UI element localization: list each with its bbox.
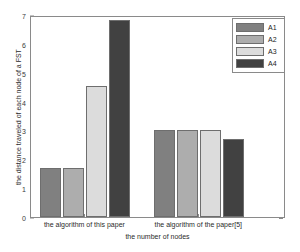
- x-axis-tick-label: the algorithm of this paper: [44, 221, 125, 228]
- legend-label: A3: [268, 48, 277, 55]
- x-axis-tick-mark: [84, 214, 85, 218]
- y-axis-tick-label: 1: [22, 186, 26, 193]
- y-axis-tick-label: 0: [22, 215, 26, 222]
- y-axis-tick-label: 2: [22, 157, 26, 164]
- bar-a1-group1: [40, 168, 61, 217]
- legend-swatch-a4: [236, 59, 264, 68]
- legend-label: A4: [268, 60, 277, 67]
- legend-item-a4[interactable]: A4: [236, 58, 281, 69]
- chart-legend: A1A2A3A4: [232, 18, 285, 73]
- bar-a3-group1: [86, 86, 107, 217]
- bar-a2-group2: [177, 130, 198, 217]
- chart-figure: the distance traveled of each node of a …: [0, 0, 300, 252]
- x-axis-label: the number of nodes: [30, 233, 285, 240]
- y-axis-tick-label: 4: [22, 99, 26, 106]
- legend-swatch-a3: [236, 47, 264, 56]
- bar-a3-group2: [200, 130, 221, 217]
- legend-swatch-a2: [236, 35, 264, 44]
- legend-swatch-a1: [236, 23, 264, 32]
- legend-label: A1: [268, 24, 277, 31]
- y-axis-tick-label: 3: [22, 128, 26, 135]
- y-axis-tick-label: 7: [22, 13, 26, 20]
- legend-label: A2: [268, 36, 277, 43]
- y-axis-tick-label: 5: [22, 70, 26, 77]
- legend-item-a3[interactable]: A3: [236, 46, 281, 57]
- y-axis-tick-label: 6: [22, 41, 26, 48]
- bar-a4-group2: [223, 139, 244, 217]
- bar-a2-group1: [63, 168, 84, 217]
- x-axis-tick-label: the algorithm of the paper[5]: [154, 221, 242, 228]
- x-axis-tick-mark: [198, 214, 199, 218]
- legend-item-a1[interactable]: A1: [236, 22, 281, 33]
- bar-a1-group2: [154, 130, 175, 217]
- bar-a4-group1: [109, 20, 130, 217]
- legend-item-a2[interactable]: A2: [236, 34, 281, 45]
- y-axis: 01234567: [0, 16, 30, 218]
